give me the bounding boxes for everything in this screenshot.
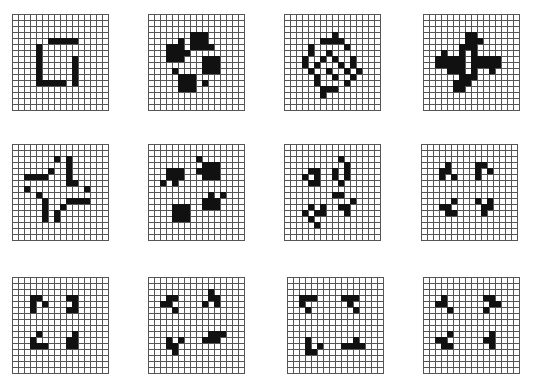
pattern-grid-10 [148,277,245,374]
pattern-grid-6 [148,144,245,241]
empty-cell [102,367,108,373]
empty-cell [238,104,244,110]
pattern-grid-7 [284,144,381,241]
pattern-grid-4 [423,14,520,111]
empty-cell [102,234,108,240]
empty-cell [374,104,380,110]
pattern-grid-12 [423,277,520,374]
empty-cell [238,234,244,240]
empty-cell [513,104,519,110]
empty-cell [513,367,519,373]
pattern-grid-9 [12,277,109,374]
pattern-grid-5 [12,144,109,241]
empty-cell [102,104,108,110]
pattern-grid-3 [284,14,381,111]
empty-cell [238,367,244,373]
pattern-grid-8 [421,144,518,241]
empty-cell [377,367,383,373]
empty-cell [511,234,517,240]
empty-cell [374,234,380,240]
pattern-grid-11 [287,277,384,374]
pattern-grid-2 [148,14,245,111]
pattern-grid-1 [12,14,109,111]
